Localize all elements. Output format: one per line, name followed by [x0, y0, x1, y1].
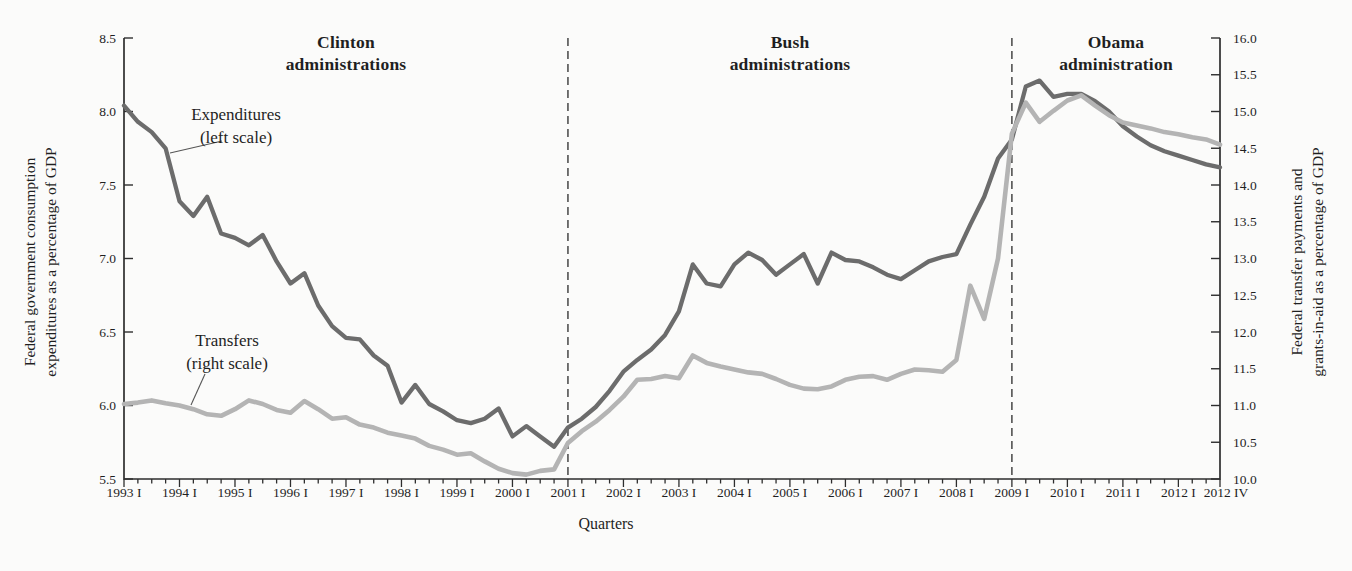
left-axis-tick-label: 6.5 [99, 325, 116, 340]
left-axis-tick-label: 7.5 [99, 178, 116, 193]
x-axis-tick-label: 2004 I [717, 485, 752, 500]
x-axis-tick-label: 1999 I [440, 485, 475, 500]
x-axis-tick-label: 2011 I [1106, 485, 1141, 500]
transfers-series-label: Transfers (right scale) [186, 329, 268, 375]
x-axis-tick-label: 1998 I [384, 485, 419, 500]
left-axis-title: Federal government consumption expenditu… [19, 147, 61, 376]
left-axis-title-line1: Federal government consumption [19, 147, 40, 376]
right-axis-title: Federal transfer payments and grants-in-… [1286, 147, 1328, 376]
expenditures-series-label: Expenditures (left scale) [191, 103, 281, 149]
x-axis-tick-label: 2005 I [772, 485, 807, 500]
bush-label-line1: Bush [730, 31, 851, 53]
left-axis-tick-label: 8.0 [99, 104, 116, 119]
x-axis-tick-label: 2010 I [1050, 485, 1085, 500]
right-axis-tick-label: 11.0 [1233, 398, 1256, 413]
x-axis-tick-label: 2000 I [495, 485, 530, 500]
right-axis-tick-label: 14.0 [1233, 178, 1257, 193]
left-axis-tick-label: 6.0 [99, 398, 116, 413]
right-axis-tick-label: 16.0 [1233, 31, 1257, 46]
right-axis-tick-label: 12.0 [1233, 325, 1257, 340]
x-axis-tick-label: 1993 I [107, 485, 142, 500]
right-axis-tick-label: 13.5 [1233, 214, 1257, 229]
obama-label-line2: administration [1059, 53, 1173, 75]
right-axis-title-line1: Federal transfer payments and [1286, 147, 1307, 376]
right-axis-tick-label: 14.5 [1233, 141, 1257, 156]
annotation-obama-administration: Obama administration [1059, 31, 1173, 75]
x-axis-tick-label: 2007 I [883, 485, 918, 500]
x-axis-tick-label: 2002 I [606, 485, 641, 500]
x-axis-tick-label: 2003 I [661, 485, 696, 500]
clinton-label-line1: Clinton [286, 31, 407, 53]
left-axis-tick-label: 7.0 [99, 251, 116, 266]
expenditures-label-line1: Expenditures [191, 103, 281, 126]
transfers-label-line2: (right scale) [186, 352, 268, 375]
right-axis-tick-label: 12.5 [1233, 288, 1257, 303]
obama-label-line1: Obama [1059, 31, 1173, 53]
annotation-bush-administrations: Bush administrations [730, 31, 851, 75]
x-axis-tick-label: 1996 I [273, 485, 308, 500]
x-axis-tick-label: 1995 I [218, 485, 253, 500]
left-axis-title-line2: expenditures as a percentage of GDP [40, 147, 61, 376]
right-axis-tick-label: 10.5 [1233, 435, 1257, 450]
transfers-leader-line [191, 374, 205, 405]
x-axis-tick-label: 2008 I [939, 485, 974, 500]
x-axis-title: Quarters [578, 515, 633, 533]
right-axis-title-line2: grants-in-aid as a percentage of GDP [1307, 147, 1328, 376]
clinton-label-line2: administrations [286, 53, 407, 75]
right-axis-tick-label: 11.5 [1233, 361, 1256, 376]
annotation-clinton-administrations: Clinton administrations [286, 31, 407, 75]
x-axis-tick-label: 1997 I [329, 485, 364, 500]
right-axis-tick-label: 15.5 [1233, 67, 1257, 82]
x-axis-tick-label: 2009 I [994, 485, 1029, 500]
right-axis-tick-label: 13.0 [1233, 251, 1257, 266]
right-axis-tick-label: 15.0 [1233, 104, 1257, 119]
bush-label-line2: administrations [730, 53, 851, 75]
transfers-line [124, 95, 1220, 474]
x-axis-tick-label: 2006 I [828, 485, 863, 500]
x-axis-tick-label: 2012 I [1161, 485, 1196, 500]
expenditures-line [124, 81, 1220, 447]
transfers-label-line1: Transfers [186, 329, 268, 352]
x-axis-tick-label: 2012 IV [1204, 485, 1249, 500]
chart-figure: 8.58.07.57.06.56.05.516.015.515.014.514.… [0, 0, 1352, 571]
line-chart: 8.58.07.57.06.56.05.516.015.515.014.514.… [0, 0, 1352, 571]
expenditures-label-line2: (left scale) [191, 126, 281, 149]
x-axis-tick-label: 2001 I [551, 485, 586, 500]
left-axis-tick-label: 8.5 [99, 31, 116, 46]
x-axis-tick-label: 1994 I [162, 485, 197, 500]
